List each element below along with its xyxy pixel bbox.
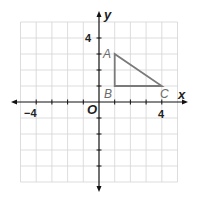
y-axis-top-arrow-icon xyxy=(97,11,102,17)
x-tick-neg4: −4 xyxy=(24,107,37,119)
x-axis-left-arrow-icon xyxy=(11,100,17,105)
y-tick-4: 4 xyxy=(85,32,92,44)
coordinate-plane: y x 4 −4 4 O A B C xyxy=(0,0,197,199)
point-label-b: B xyxy=(104,87,112,101)
origin-label: O xyxy=(87,102,97,117)
point-label-c: C xyxy=(160,87,169,101)
y-axis-label: y xyxy=(103,7,112,22)
point-label-a: A xyxy=(102,47,111,61)
y-axis-bottom-arrow-icon xyxy=(97,186,102,192)
x-axis-label: x xyxy=(177,87,186,102)
x-tick-4: 4 xyxy=(158,108,165,120)
